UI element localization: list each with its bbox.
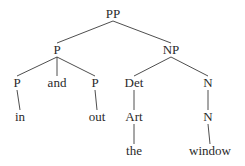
node-and: and — [48, 75, 67, 90]
node-window: window — [189, 143, 232, 158]
node-in: in — [15, 109, 26, 124]
node-n-mid: N — [203, 109, 213, 124]
edge-p_top-p_right — [57, 57, 95, 76]
node-p-top: P — [53, 42, 60, 57]
edge-np-det — [134, 57, 171, 76]
node-pp: PP — [106, 6, 120, 21]
node-p-left: P — [13, 75, 20, 90]
tree-labels: PP P NP P and P Det N in out Art N the w… — [13, 6, 231, 158]
edge-p_top-p_left — [17, 57, 57, 76]
node-p-right: P — [91, 75, 98, 90]
edge-p_left-in — [17, 90, 20, 110]
edge-n_mid-window — [208, 124, 210, 144]
node-n-top: N — [203, 75, 213, 90]
syntax-tree: PP P NP P and P Det N in out Art N the w… — [0, 0, 245, 166]
node-art: Art — [125, 109, 143, 124]
edge-pp-np — [113, 21, 171, 43]
node-det: Det — [125, 75, 144, 90]
tree-edges — [17, 21, 210, 144]
node-the: the — [126, 143, 142, 158]
edge-np-n_top — [171, 57, 208, 76]
node-np: NP — [163, 42, 180, 57]
edge-p_right-out — [95, 90, 97, 110]
edge-pp-p_top — [57, 21, 113, 43]
node-out: out — [89, 109, 106, 124]
